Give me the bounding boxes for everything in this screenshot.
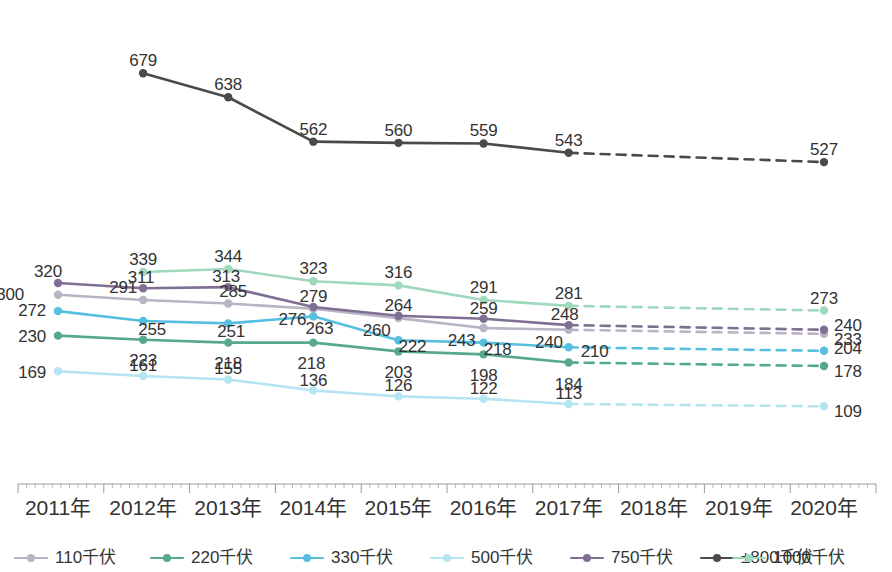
data-point-label: 136 — [299, 372, 327, 389]
series-segment-solid — [143, 287, 228, 288]
line-marker-icon — [732, 551, 766, 565]
data-point[interactable] — [564, 343, 572, 351]
data-point[interactable] — [394, 139, 402, 147]
data-point-label: 263 — [305, 320, 333, 337]
line-marker-icon — [14, 551, 48, 565]
data-point-label: 259 — [470, 300, 498, 317]
data-point[interactable] — [309, 137, 317, 145]
data-point[interactable] — [309, 277, 317, 285]
data-point-label: 230 — [18, 328, 46, 345]
legend-label: 220千伏 — [191, 549, 253, 566]
line-chart: 3002912852762602432402332302232182182031… — [0, 0, 892, 572]
data-point-label: 113 — [555, 385, 582, 402]
series-segment-solid — [484, 328, 569, 330]
line-marker-icon — [430, 551, 464, 565]
line-marker-icon — [700, 551, 734, 565]
series-segment-solid — [58, 336, 143, 340]
data-point-label: 527 — [810, 141, 838, 158]
data-point[interactable] — [54, 331, 62, 339]
data-point-label: 169 — [18, 364, 46, 381]
data-point-label: 273 — [810, 290, 838, 307]
data-point-label: 178 — [834, 363, 862, 380]
series-segment-dashed — [569, 325, 824, 330]
data-point-label: 218 — [484, 341, 512, 358]
data-point[interactable] — [564, 358, 572, 366]
data-point[interactable] — [139, 296, 147, 304]
data-point-label: 311 — [128, 269, 155, 286]
legend-item-4[interactable]: 500千伏 — [430, 549, 533, 566]
series-segment-dashed — [569, 330, 824, 334]
x-tick-label-2: 2012年 — [109, 497, 177, 518]
data-point[interactable] — [54, 291, 62, 299]
data-point[interactable] — [479, 139, 487, 147]
data-point-label: 339 — [129, 251, 157, 268]
data-point-label: 272 — [18, 302, 46, 319]
x-tick-label-4: 2014年 — [279, 497, 347, 518]
series-segment-solid — [143, 300, 228, 304]
data-point[interactable] — [820, 306, 828, 314]
data-point-label: 155 — [214, 360, 242, 377]
data-point-label: 240 — [535, 334, 563, 351]
legend-label: 1000千伏 — [773, 549, 845, 566]
data-point-label: 638 — [214, 76, 242, 93]
data-point[interactable] — [820, 326, 828, 334]
legend-item-7[interactable]: 1000千伏 — [732, 549, 845, 566]
legend-item-1[interactable]: 110千伏 — [14, 549, 116, 566]
data-point[interactable] — [564, 149, 572, 157]
x-tick-label-9: 2019年 — [705, 497, 773, 518]
series-6 — [139, 69, 828, 166]
data-point[interactable] — [224, 299, 232, 307]
data-point-label: 560 — [385, 122, 413, 139]
line-marker-icon — [570, 551, 604, 565]
data-point-label: 543 — [555, 132, 583, 149]
data-point[interactable] — [820, 347, 828, 355]
data-point[interactable] — [820, 158, 828, 166]
data-point-label: 251 — [217, 323, 245, 340]
data-point-label: 260 — [363, 322, 391, 339]
data-point-label: 264 — [385, 297, 413, 314]
series-segment-solid — [313, 142, 398, 143]
data-point-label: 122 — [470, 380, 498, 397]
data-point-label: 291 — [470, 279, 498, 296]
series-segment-dashed — [569, 404, 824, 406]
data-point-label: 240 — [834, 317, 862, 334]
series-5 — [54, 279, 828, 334]
x-tick-label-3: 2013年 — [194, 497, 262, 518]
data-point[interactable] — [309, 338, 317, 346]
data-point[interactable] — [54, 307, 62, 315]
x-tick-label-8: 2018年 — [620, 497, 688, 518]
legend-label: 500千伏 — [471, 549, 533, 566]
data-point-label: 281 — [555, 285, 583, 302]
data-point[interactable] — [139, 69, 147, 77]
line-marker-icon — [290, 551, 324, 565]
series-segment-solid — [58, 311, 143, 321]
legend-item-2[interactable]: 220千伏 — [150, 549, 253, 566]
plot-area: 3002912852762602432402332302232182182031… — [0, 0, 892, 492]
data-point-label: 243 — [448, 332, 476, 349]
legend-item-3[interactable]: 330千伏 — [290, 549, 393, 566]
data-point-label: 276 — [279, 311, 307, 328]
data-point-label: 255 — [138, 321, 166, 338]
data-point-label: 161 — [129, 357, 157, 374]
data-point[interactable] — [394, 281, 402, 289]
series-segment-solid — [398, 318, 483, 328]
data-point-label: 218 — [297, 355, 325, 372]
x-tick-label-10: 2020年 — [790, 497, 858, 518]
series-segment-solid — [143, 340, 228, 343]
data-point-label: 279 — [299, 288, 327, 305]
data-point-label: 562 — [299, 121, 327, 138]
data-point[interactable] — [820, 402, 828, 410]
x-tick-label-5: 2015年 — [365, 497, 433, 518]
data-point[interactable] — [224, 93, 232, 101]
data-point-label: 316 — [385, 264, 413, 281]
plot-svg — [0, 0, 892, 492]
data-point[interactable] — [479, 324, 487, 332]
data-point-label: 126 — [385, 377, 413, 394]
data-point[interactable] — [54, 367, 62, 375]
data-point-label: 222 — [399, 338, 427, 355]
data-point-label: 109 — [834, 403, 862, 420]
series-segment-solid — [313, 343, 398, 352]
data-point-label: 323 — [299, 260, 327, 277]
data-point[interactable] — [820, 362, 828, 370]
legend-item-5[interactable]: 750千伏 — [570, 549, 673, 566]
